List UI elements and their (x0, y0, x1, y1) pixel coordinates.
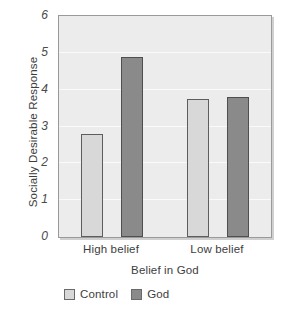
x-axis-ticks: High beliefLow belief (58, 243, 272, 261)
chart-legend: ControlGod (58, 288, 272, 300)
bar (121, 57, 143, 237)
legend-swatch-icon (131, 289, 142, 300)
y-tick-label: 3 (41, 119, 48, 133)
legend-entry: God (131, 288, 169, 300)
legend-entry: Control (64, 288, 118, 300)
bar (187, 99, 209, 237)
y-axis-title: Socially Desirable Response (27, 37, 39, 227)
y-tick-label: 6 (41, 8, 48, 22)
x-axis-title: Belief in God (58, 264, 272, 276)
y-tick-label: 2 (41, 155, 48, 169)
y-tick-label: 0 (41, 229, 48, 243)
y-tick-label: 5 (41, 45, 48, 59)
gridline (59, 89, 271, 90)
plot-area (58, 15, 272, 238)
x-tick-label: High belief (83, 243, 139, 255)
bar-chart-figure: 0123456 Socially Desirable Response High… (0, 0, 294, 315)
bar (227, 97, 249, 237)
legend-swatch-icon (64, 289, 75, 300)
legend-label: Control (80, 288, 118, 300)
legend-label: God (147, 288, 169, 300)
y-tick-label: 1 (41, 192, 48, 206)
x-tick-label: Low belief (190, 243, 243, 255)
bar (81, 134, 103, 237)
y-tick-label: 4 (41, 82, 48, 96)
gridline (59, 52, 271, 53)
